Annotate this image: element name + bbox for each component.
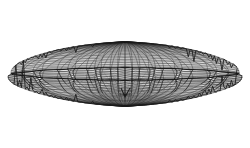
- wireframe-figure: [0, 0, 250, 148]
- wireframe-surface-plot: [0, 0, 250, 148]
